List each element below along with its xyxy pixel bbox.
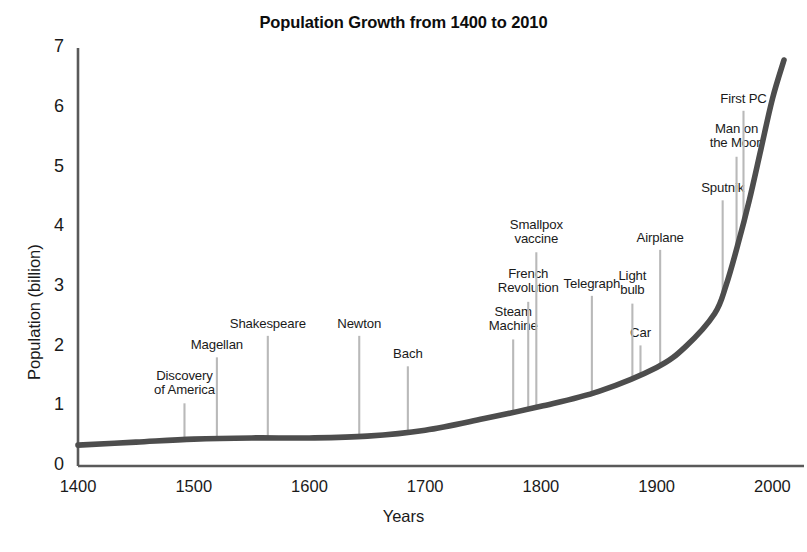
population-curve — [78, 60, 784, 445]
annotation-leader-lines — [184, 111, 743, 439]
chart-plot-area — [0, 0, 807, 552]
axis-lines — [78, 48, 804, 466]
population-growth-chart: Population Growth from 1400 to 2010 Popu… — [0, 0, 807, 552]
